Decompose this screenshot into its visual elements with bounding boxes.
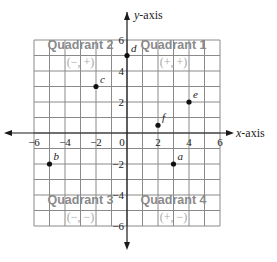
point-e-marker — [186, 99, 191, 104]
y-axis-up-arrow-icon — [124, 12, 130, 20]
y-tick-label: −6 — [112, 220, 124, 232]
point-f-marker — [155, 123, 160, 128]
x-tick-label: 4 — [186, 136, 192, 148]
x-axis-title-suffix: -axis — [241, 126, 265, 140]
x-tick-label: −4 — [59, 136, 71, 148]
quadrant-2-signs: (−, +) — [67, 55, 95, 69]
x-tick-label: −2 — [90, 136, 102, 148]
quadrant-3-signs: (−, −) — [67, 210, 95, 224]
y-axis-title: y-axis — [133, 8, 163, 22]
x-tick-label: 2 — [155, 136, 161, 148]
quadrant-1-label: Quadrant 1 — [141, 38, 207, 52]
point-d-label: d — [131, 42, 137, 54]
y-tick-label: 4 — [119, 65, 125, 77]
y-tick-label: −4 — [112, 189, 124, 201]
y-axis-title-suffix: -axis — [139, 8, 163, 22]
coordinate-plane: Quadrant 1(+, +)Quadrant 2(−, +)Quadrant… — [0, 0, 277, 262]
point-b-marker — [47, 161, 52, 166]
point-a-marker — [171, 161, 176, 166]
x-tick-label: −6 — [28, 136, 40, 148]
y-tick-label: −2 — [112, 158, 124, 170]
quadrant-4-signs: (+, −) — [160, 210, 188, 224]
y-axis-down-arrow-icon — [124, 242, 130, 250]
quadrant-1-signs: (+, +) — [160, 55, 188, 69]
point-b-label: b — [54, 150, 60, 162]
quadrant-3-label: Quadrant 3 — [48, 193, 114, 207]
point-c-marker — [93, 84, 98, 89]
point-a-label: a — [178, 150, 184, 162]
quadrant-4-label: Quadrant 4 — [141, 193, 207, 207]
quadrant-2-label: Quadrant 2 — [48, 38, 114, 52]
x-axis-title: x-axis — [235, 126, 265, 140]
y-tick-label: 2 — [119, 96, 125, 108]
x-tick-label: 6 — [217, 136, 223, 148]
x-axis-left-arrow-icon — [4, 130, 12, 136]
origin-label: 0 — [119, 136, 125, 148]
point-e-label: e — [193, 88, 198, 100]
y-tick-label: 6 — [119, 34, 125, 46]
x-axis-right-arrow-icon — [226, 130, 234, 136]
point-d-marker — [124, 53, 129, 58]
point-c-label: c — [100, 73, 105, 85]
